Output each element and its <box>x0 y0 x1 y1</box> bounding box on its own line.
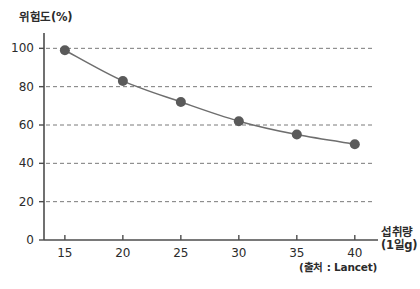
data-point-x35 <box>292 130 302 140</box>
x-axis-title: 섭취량 (1일g) <box>381 226 417 252</box>
data-point-x15 <box>60 45 70 55</box>
x-tick-label-35: 35 <box>289 246 304 260</box>
x-axis-unit-text: (1일g) <box>381 239 417 252</box>
x-axis-ticks-group: 152025303540 <box>57 235 362 260</box>
data-point-x30 <box>234 116 244 126</box>
series-line-risk <box>65 50 355 144</box>
plot-area: 020406080100 152025303540 <box>0 0 420 289</box>
y-axis-ticks-group: 020406080100 <box>11 41 44 247</box>
gridlines-group <box>46 48 372 201</box>
source-note: (출처 : Lancet) <box>299 259 377 274</box>
y-tick-label-100: 100 <box>11 41 34 55</box>
x-tick-label-25: 25 <box>173 246 188 260</box>
x-tick-label-30: 30 <box>231 246 246 260</box>
data-point-x25 <box>176 97 186 107</box>
data-point-x40 <box>350 139 360 149</box>
x-tick-label-20: 20 <box>115 246 130 260</box>
x-axis-title-text: 섭취량 <box>381 225 413 239</box>
risk-intake-line-chart: 위험도(%) 020406080100 152025303540 섭취량 (1일… <box>0 0 420 289</box>
y-tick-label-60: 60 <box>19 118 34 132</box>
data-point-markers-group <box>60 45 360 149</box>
x-tick-label-40: 40 <box>347 246 362 260</box>
y-tick-label-80: 80 <box>19 80 34 94</box>
x-tick-label-15: 15 <box>57 246 72 260</box>
y-tick-label-20: 20 <box>19 195 34 209</box>
y-tick-label-0: 0 <box>26 233 34 247</box>
data-point-x20 <box>118 76 128 86</box>
y-tick-label-40: 40 <box>19 156 34 170</box>
